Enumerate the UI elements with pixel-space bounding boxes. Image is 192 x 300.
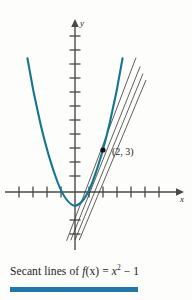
secant-lines-group (67, 58, 146, 241)
figure-caption: Secant lines of f(x) = x2 − 1 (10, 263, 182, 277)
secant-lines-plot: (2, 3) x y (0, 0, 192, 262)
x-axis-label: x (179, 194, 184, 204)
point-label: (2, 3) (112, 146, 134, 158)
accent-bar (10, 287, 138, 292)
y-axis-label: y (79, 18, 84, 28)
secant-line-4 (79, 80, 146, 240)
caption-prefix: Secant lines of (10, 265, 82, 277)
figure-container: (2, 3) x y Secant lines of f(x) = x2 − 1 (0, 0, 192, 300)
y-axis-arrow (71, 19, 79, 27)
caption-argument: (x) = (85, 265, 111, 277)
point-marker (100, 147, 105, 152)
caption-tail: − 1 (121, 265, 139, 277)
